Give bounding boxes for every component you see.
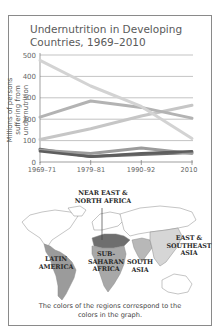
y-tick-200: 200 [23,116,36,124]
y-tick-100: 100 [23,137,36,145]
map-caption: The colors of the regions correspond to … [12,302,208,320]
label-south-asia-line-2: ASIA [124,267,156,275]
x-tick-1969: 1969–71 [28,166,56,174]
caption-line-1: The colors of the regions correspond to … [12,302,208,311]
label-east-asia-line-3: ASIA [166,250,212,258]
series-east-southeast-asia [40,60,192,138]
x-tick-2010: 2010 [181,166,198,174]
label-latin-line-2: AMERICA [36,264,76,272]
x-tick-1990: 1990–92 [127,166,155,174]
australia [162,274,192,294]
x-tick-labels: 1969–71 1979–81 1990–92 2010 [28,166,198,174]
x-tick-1979: 1979–81 [77,166,105,174]
near-east-region [92,234,130,248]
latin-america-region [44,244,76,300]
europe [92,212,124,230]
label-near-east-line-2: NORTH AFRICA [72,198,134,206]
label-latin-america: LATIN AMERICA [36,256,76,271]
label-east-southeast-asia: EAST & SOUTHEAST ASIA [166,235,212,258]
y-tick-labels: 500 400 300 200 100 0 [23,52,36,167]
label-ssa-line-3: AFRICA [86,266,126,274]
line-chart: 500 400 300 200 100 0 1969–71 1979–81 19… [0,0,218,331]
label-south-asia: SOUTH ASIA [124,259,156,274]
north-america [22,210,78,246]
label-sub-saharan-africa: SUB- SAHARAN AFRICA [86,251,126,274]
y-tick-400: 400 [23,73,36,81]
y-tick-300: 300 [23,94,36,102]
y-tick-500: 500 [23,52,36,60]
caption-line-2: colors in the graph. [12,311,208,320]
label-near-east: NEAR EAST & NORTH AFRICA [72,190,134,205]
